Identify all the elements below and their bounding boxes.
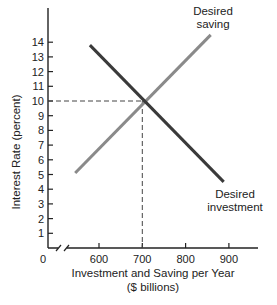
y-tick-label: 2 bbox=[38, 213, 44, 225]
saving-label-line2: saving bbox=[196, 18, 229, 30]
chart: 1234567891011121314 600700800900 0 Desir… bbox=[0, 0, 277, 305]
equilibrium-guides bbox=[48, 101, 142, 248]
investment-label-line1: Desired bbox=[215, 188, 255, 200]
y-tick-label: 5 bbox=[38, 169, 44, 181]
x-tick-label: 900 bbox=[220, 253, 238, 265]
curves bbox=[75, 35, 224, 182]
y-tick-label: 3 bbox=[38, 198, 44, 210]
y-tick-label: 14 bbox=[32, 36, 44, 48]
y-tick-label: 8 bbox=[38, 124, 44, 136]
axis-break-icon bbox=[56, 244, 69, 252]
y-tick-label: 9 bbox=[38, 110, 44, 122]
desired-investment-curve bbox=[90, 45, 224, 182]
y-tick-label: 12 bbox=[32, 66, 44, 78]
saving-label-line1: Desired bbox=[193, 5, 233, 17]
y-tick-label: 10 bbox=[32, 95, 44, 107]
y-tick-label: 4 bbox=[38, 183, 44, 195]
x-axis-unit: ($ billions) bbox=[127, 281, 180, 293]
x-tick-label: 600 bbox=[90, 253, 108, 265]
x-tick-label: 700 bbox=[133, 253, 151, 265]
y-tick-label: 11 bbox=[33, 80, 44, 92]
y-tick-label: 13 bbox=[32, 51, 44, 63]
y-ticks: 1234567891011121314 bbox=[32, 36, 53, 239]
origin-label: 0 bbox=[40, 253, 46, 265]
investment-label-line2: investment bbox=[207, 201, 263, 213]
x-tick-label: 800 bbox=[176, 253, 194, 265]
y-axis-title: Interest Rate (percent) bbox=[10, 94, 22, 209]
x-axis-title: Investment and Saving per Year bbox=[71, 267, 234, 279]
y-tick-label: 6 bbox=[38, 154, 44, 166]
desired-saving-curve bbox=[75, 35, 211, 173]
x-ticks: 600700800900 bbox=[90, 243, 238, 265]
y-tick-label: 7 bbox=[38, 139, 44, 151]
y-tick-label: 1 bbox=[38, 227, 44, 239]
